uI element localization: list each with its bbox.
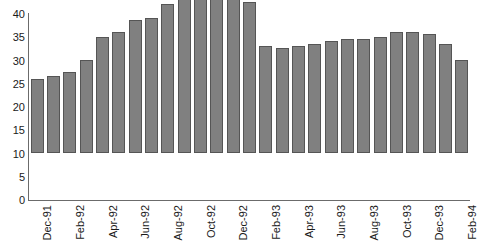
bar bbox=[63, 72, 76, 153]
bar bbox=[276, 48, 289, 153]
bar bbox=[227, 0, 240, 153]
bar bbox=[31, 79, 44, 153]
y-tick-label: 5 bbox=[1, 172, 25, 183]
bar bbox=[439, 44, 452, 153]
y-tick-label: 25 bbox=[1, 79, 25, 90]
x-tick-label: Feb-92 bbox=[75, 205, 86, 240]
bar bbox=[259, 46, 272, 153]
y-tick-label: 0 bbox=[1, 195, 25, 206]
y-tick-label: 15 bbox=[1, 125, 25, 136]
x-tick-label: Jun-93 bbox=[336, 205, 347, 239]
x-tick-label: Dec-92 bbox=[238, 205, 249, 240]
bar bbox=[112, 32, 125, 153]
bar bbox=[210, 0, 223, 153]
bar bbox=[357, 39, 370, 153]
bar bbox=[406, 32, 419, 153]
x-tick-label: Apr-93 bbox=[304, 205, 315, 238]
x-tick-label: Dec-93 bbox=[434, 205, 445, 240]
x-tick-label: Apr-92 bbox=[108, 205, 119, 238]
x-tick-label: Jun-92 bbox=[140, 205, 151, 239]
bar bbox=[178, 0, 191, 153]
x-tick-label: Oct-93 bbox=[402, 205, 413, 238]
bar bbox=[455, 60, 468, 153]
bar bbox=[390, 32, 403, 153]
bar bbox=[243, 2, 256, 153]
bar bbox=[374, 37, 387, 153]
x-tick-label: Aug-93 bbox=[369, 205, 380, 240]
bar bbox=[145, 18, 158, 153]
y-axis-tick-labels: 0510152025303540 bbox=[0, 0, 25, 248]
bar bbox=[308, 44, 321, 153]
y-tick-label: 35 bbox=[1, 32, 25, 43]
y-tick-label: 30 bbox=[1, 56, 25, 67]
x-tick-label: Dec-91 bbox=[42, 205, 53, 240]
x-tick-label: Aug-92 bbox=[173, 205, 184, 240]
bar bbox=[423, 34, 436, 153]
bar bbox=[129, 20, 142, 153]
x-tick-label: Feb-93 bbox=[271, 205, 282, 240]
bar bbox=[194, 0, 207, 153]
y-tick-label: 20 bbox=[1, 102, 25, 113]
y-tick-label: 10 bbox=[1, 149, 25, 160]
bar bbox=[161, 4, 174, 153]
bar bbox=[341, 39, 354, 153]
bar bbox=[47, 76, 60, 153]
x-axis-tick-labels: Dec-91Feb-92Apr-92Jun-92Aug-92Oct-92Dec-… bbox=[29, 201, 470, 248]
x-tick-label: Feb-94 bbox=[467, 205, 478, 240]
bar bbox=[96, 37, 109, 153]
x-tick-label: Oct-92 bbox=[206, 205, 217, 238]
bar-series bbox=[29, 0, 470, 201]
y-tick-label: 40 bbox=[1, 9, 25, 20]
bar bbox=[80, 60, 93, 153]
bar bbox=[292, 46, 305, 153]
bar bbox=[325, 41, 338, 153]
